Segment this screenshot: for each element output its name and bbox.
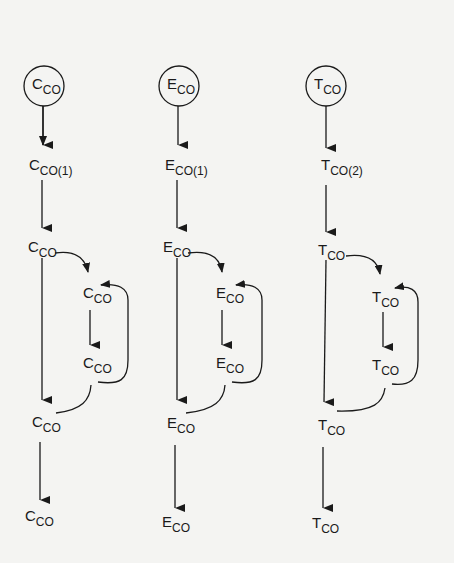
node-sub: CO [323, 83, 341, 97]
node-sub: CO [43, 83, 61, 97]
node-t-1: TCO(2) [321, 157, 363, 172]
node-t-2: TCO [318, 242, 345, 257]
node-t-5: TCO [318, 417, 345, 432]
node-c-1: CCO(1) [29, 157, 73, 172]
node-base: C [32, 75, 43, 92]
node-e-1: ECO(1) [165, 157, 208, 172]
start-node-t: TCO [314, 76, 341, 91]
node-e-2: ECO [163, 239, 191, 254]
start-node-e: ECO [167, 76, 195, 91]
node-base: T [314, 75, 323, 92]
node-base: E [167, 75, 177, 92]
node-c-2: CCO [28, 239, 57, 254]
node-c-4: CCO [83, 355, 112, 370]
node-t-3: TCO [372, 289, 399, 304]
node-t-6: TCO [312, 515, 339, 530]
node-e-3: ECO [216, 285, 244, 300]
start-node-c: CCO [32, 76, 61, 91]
node-t-4: TCO [372, 357, 399, 372]
node-c-3: CCO [83, 285, 112, 300]
node-e-6: ECO [162, 514, 190, 529]
node-sub: CO [177, 83, 195, 97]
node-e-4: ECO [216, 355, 244, 370]
flow-diagram-edges [0, 0, 454, 563]
node-e-5: ECO [167, 415, 195, 430]
node-c-5: CCO [32, 414, 61, 429]
node-c-6: CCO [25, 508, 54, 523]
